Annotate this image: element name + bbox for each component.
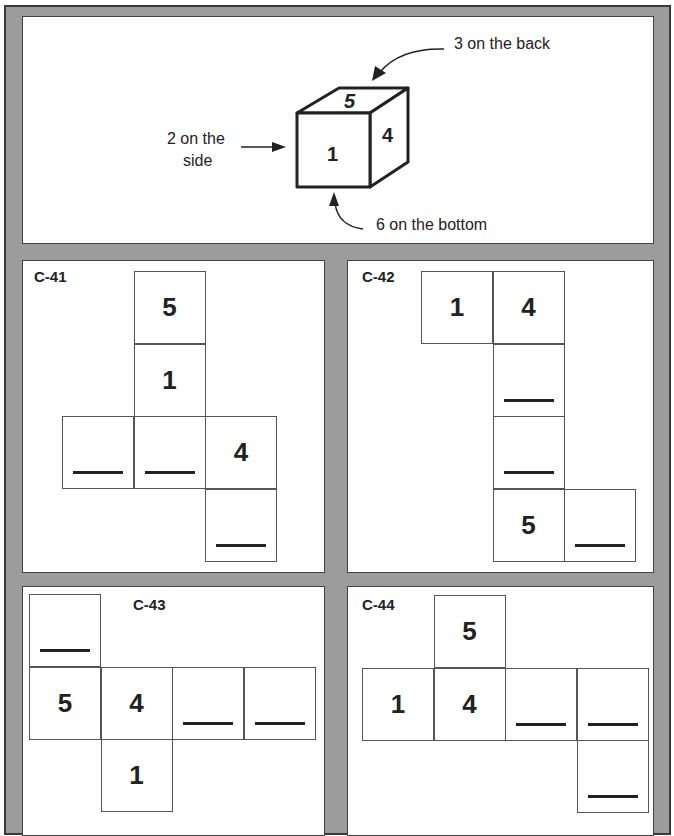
- net-face: 1: [101, 739, 173, 812]
- net-face-blank[interactable]: [244, 667, 316, 740]
- net-face-blank[interactable]: [564, 489, 636, 562]
- face-number: 5: [162, 292, 176, 323]
- answer-blank-line[interactable]: [516, 723, 566, 726]
- net-face: 1: [362, 668, 434, 741]
- answer-blank-line[interactable]: [588, 795, 638, 798]
- net-face-blank[interactable]: [134, 416, 206, 489]
- arrow-bottom-head-icon: [329, 192, 339, 206]
- net-face-blank[interactable]: [205, 489, 277, 562]
- answer-blank-line[interactable]: [40, 649, 90, 652]
- net-face: 4: [101, 667, 173, 740]
- answer-blank-line[interactable]: [216, 544, 266, 547]
- answer-blank-line[interactable]: [504, 471, 554, 474]
- net-face-blank[interactable]: [505, 668, 577, 741]
- face-number: 4: [462, 689, 476, 720]
- label-bottom: 6 on the bottom: [376, 216, 487, 234]
- label-side-line1: 2 on the: [167, 130, 225, 148]
- face-number: 1: [450, 292, 464, 323]
- answer-blank-line[interactable]: [588, 723, 638, 726]
- face-number: 1: [129, 760, 143, 791]
- face-number: 1: [162, 365, 176, 396]
- arrow-back-icon: [380, 49, 444, 72]
- net-face-blank[interactable]: [172, 667, 244, 740]
- net-face: 5: [29, 667, 101, 740]
- net-face: 1: [134, 344, 206, 417]
- net-face-blank[interactable]: [577, 668, 649, 741]
- net-face-blank[interactable]: [62, 416, 134, 489]
- problem-label: C-43: [133, 596, 166, 613]
- net-face-blank[interactable]: [29, 594, 101, 667]
- face-number: 4: [129, 688, 143, 719]
- answer-blank-line[interactable]: [575, 544, 625, 547]
- problem-label: C-44: [362, 596, 395, 613]
- cube-top-number: 5: [344, 90, 355, 113]
- problem-label: C-42: [362, 268, 395, 285]
- face-number: 4: [234, 437, 248, 468]
- cube-right-number: 4: [382, 124, 393, 147]
- net-face-blank[interactable]: [493, 416, 565, 489]
- net-face: 4: [493, 271, 565, 344]
- label-side-line2: side: [183, 152, 212, 170]
- cube-front-number: 1: [327, 143, 338, 166]
- arrow-bottom-icon: [335, 203, 363, 229]
- net-face: 5: [434, 595, 506, 668]
- answer-blank-line[interactable]: [73, 471, 123, 474]
- net-face: 4: [434, 668, 506, 741]
- answer-blank-line[interactable]: [145, 471, 195, 474]
- answer-blank-line[interactable]: [255, 722, 305, 725]
- net-face: 1: [421, 271, 493, 344]
- problem-label: C-41: [34, 268, 67, 285]
- face-number: 5: [58, 688, 72, 719]
- arrow-side-head-icon: [272, 142, 286, 152]
- label-back: 3 on the back: [454, 35, 550, 53]
- net-face-blank[interactable]: [493, 344, 565, 417]
- face-number: 4: [521, 292, 535, 323]
- net-face-blank[interactable]: [577, 740, 649, 813]
- face-number: 1: [391, 689, 405, 720]
- net-face: 5: [134, 271, 206, 344]
- answer-blank-line[interactable]: [504, 399, 554, 402]
- net-face: 5: [493, 489, 565, 562]
- answer-blank-line[interactable]: [183, 722, 233, 725]
- face-number: 5: [521, 510, 535, 541]
- net-face: 4: [205, 416, 277, 489]
- face-number: 5: [462, 616, 476, 647]
